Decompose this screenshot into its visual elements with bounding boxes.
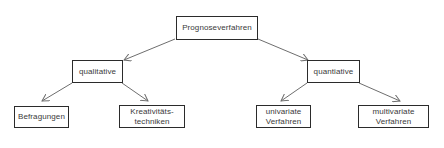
edge-root-to-qualitative xyxy=(124,39,175,60)
node-label: Befragungen xyxy=(18,112,65,122)
edge-root-to-quantitative xyxy=(258,39,308,60)
edge-qualitative-to-befragungen xyxy=(42,83,72,101)
node-kreativitaetstechniken: Kreativitäts- techniken xyxy=(119,105,185,128)
node-univariate-verfahren: univariate Verfahren xyxy=(256,105,311,128)
node-label: qualitative xyxy=(79,67,116,77)
node-label: univariate Verfahren xyxy=(266,107,302,127)
node-label: Prognoseverfahren xyxy=(182,23,252,33)
node-label: multivariate Verfahren xyxy=(372,107,414,127)
edge-quantitative-to-multivariate xyxy=(359,83,400,101)
diagram-canvas: Prognoseverfahren qualitative quantiativ… xyxy=(0,0,444,148)
node-label: Kreativitäts- techniken xyxy=(130,107,174,127)
node-befragungen: Befragungen xyxy=(14,106,69,128)
node-multivariate-verfahren: multivariate Verfahren xyxy=(358,105,429,128)
edge-quantitative-to-univariate xyxy=(281,83,307,101)
node-qualitative: qualitative xyxy=(72,60,123,83)
edge-qualitative-to-kreativitaetstechniken xyxy=(122,83,148,101)
node-prognoseverfahren: Prognoseverfahren xyxy=(176,16,258,40)
node-label: quantiative xyxy=(314,67,354,77)
node-quantitative: quantiative xyxy=(307,60,360,83)
